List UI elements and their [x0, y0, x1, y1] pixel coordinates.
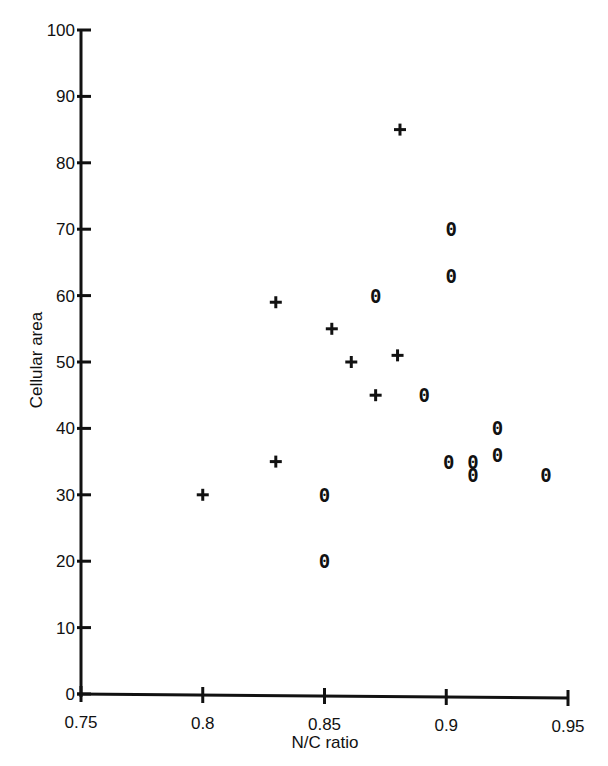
x-tick-label: 0.95 — [551, 717, 584, 736]
plus-marker — [370, 389, 382, 401]
o-marker: 0 — [319, 550, 330, 572]
x-tick-label: 0.85 — [308, 715, 341, 734]
o-marker: 0 — [540, 464, 551, 486]
plus-marker — [394, 124, 406, 136]
plus-marker — [270, 296, 282, 308]
o-marker: 0 — [492, 417, 503, 439]
y-tick-label: 40 — [56, 419, 75, 438]
o-marker: 0 — [319, 484, 330, 506]
scatter-chart: 01020304050607080901000.750.80.850.90.95… — [0, 0, 608, 766]
plus-marker — [326, 323, 338, 335]
x-axis-line — [77, 694, 568, 698]
y-tick-label: 100 — [47, 21, 75, 40]
y-tick-label: 20 — [56, 552, 75, 571]
o-marker: 0 — [370, 285, 381, 307]
y-tick-label: 30 — [56, 486, 75, 505]
plus-marker — [197, 489, 209, 501]
y-tick-label: 70 — [56, 220, 75, 239]
y-tick-label: 50 — [56, 353, 75, 372]
y-tick-label: 80 — [56, 154, 75, 173]
data-points: 000000000000 — [197, 124, 552, 573]
o-marker: 0 — [443, 451, 454, 473]
x-axis-title: N/C ratio — [291, 733, 358, 752]
plus-marker — [270, 456, 282, 468]
o-marker: 0 — [492, 444, 503, 466]
y-axis-title: Cellular area — [27, 311, 46, 408]
o-marker: 0 — [445, 218, 456, 240]
y-tick-label: 90 — [56, 87, 75, 106]
o-marker: 0 — [445, 265, 456, 287]
plus-marker — [392, 349, 404, 361]
o-marker: 0 — [419, 384, 430, 406]
o-marker: 0 — [467, 464, 478, 486]
plus-marker — [345, 356, 357, 368]
x-tick-label: 0.8 — [191, 714, 215, 733]
y-tick-label: 10 — [56, 619, 75, 638]
y-tick-label: 0 — [66, 685, 75, 704]
x-tick-label: 0.9 — [434, 716, 458, 735]
y-tick-label: 60 — [56, 287, 75, 306]
axes: 01020304050607080901000.750.80.850.90.95 — [47, 21, 585, 736]
x-tick-label: 0.75 — [64, 713, 97, 732]
